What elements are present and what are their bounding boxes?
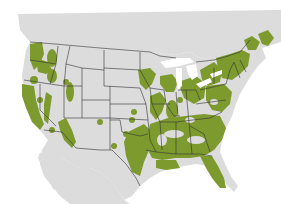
range-map: Range <box>0 0 281 204</box>
map-canvas <box>0 0 281 204</box>
